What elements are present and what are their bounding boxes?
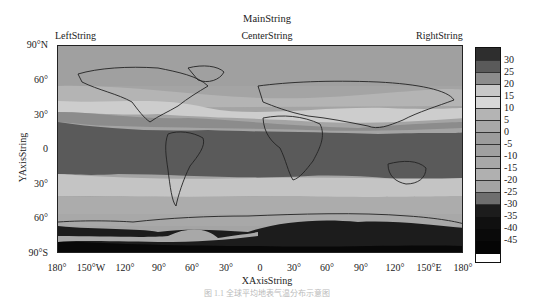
colorbar-segment <box>476 181 500 193</box>
y-tick-90N: 90°N <box>8 39 48 50</box>
colorbar-label: -10 <box>504 150 517 161</box>
y-tick-60N: 60° <box>8 74 48 85</box>
colorbar-label: -45 <box>504 234 517 245</box>
right-string: RightString <box>416 30 463 41</box>
colorbar <box>475 47 501 263</box>
y-tick-90S: 90°S <box>8 247 48 258</box>
colorbar-segment <box>476 48 500 61</box>
colorbar-label: 10 <box>504 102 514 113</box>
colorbar-label: 15 <box>504 90 514 101</box>
colorbar-label: -25 <box>504 186 517 197</box>
colorbar-segment <box>476 97 500 109</box>
colorbar-label: 30 <box>504 54 514 65</box>
colorbar-label: 5 <box>504 114 509 125</box>
colorbar-segment <box>476 85 500 97</box>
colorbar-segment <box>476 73 500 85</box>
colorbar-segment <box>476 133 500 145</box>
colorbar-segment <box>476 145 500 157</box>
colorbar-label: -5 <box>504 138 512 149</box>
colorbar-label: -40 <box>504 222 517 233</box>
colorbar-segment <box>476 217 500 229</box>
x-axis-label: XAxisString <box>0 275 534 286</box>
colorbar-label: 25 <box>504 66 514 77</box>
colorbar-segment <box>476 241 500 254</box>
colorbar-segment <box>476 169 500 181</box>
contour-map <box>58 46 463 253</box>
colorbar-label: -15 <box>504 162 517 173</box>
colorbar-segment <box>476 229 500 241</box>
figure-caption: 图 1.1 全球平均地表气温分布示意图 <box>0 287 534 298</box>
colorbar-label: 0 <box>504 126 509 137</box>
colorbar-segment <box>476 121 500 133</box>
main-title: MainString <box>0 13 534 24</box>
colorbar-label: -30 <box>504 198 517 209</box>
colorbar-label: -35 <box>504 210 517 221</box>
colorbar-segment <box>476 193 500 205</box>
colorbar-label: -20 <box>504 174 517 185</box>
y-tick-30S: 30° <box>8 178 48 189</box>
colorbar-label: 20 <box>504 78 514 89</box>
y-tick-60S: 60° <box>8 212 48 223</box>
x-tick-180e: 180° <box>441 262 485 273</box>
map-plot-area <box>57 45 463 253</box>
colorbar-segment <box>476 205 500 217</box>
y-axis-label: YAxisString <box>17 118 28 198</box>
colorbar-segment <box>476 157 500 169</box>
colorbar-segment <box>476 61 500 73</box>
y-tick-30N: 30° <box>8 109 48 120</box>
colorbar-segment <box>476 109 500 121</box>
y-tick-0: 0 <box>8 143 48 154</box>
